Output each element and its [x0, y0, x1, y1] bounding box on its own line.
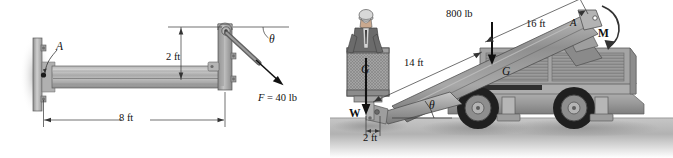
- plate-bolt-top: [41, 45, 46, 51]
- label-cg-bucket: G: [361, 64, 369, 76]
- cabinet-rear-face: [630, 48, 636, 94]
- label-dim-2ft: 2 ft: [166, 52, 180, 63]
- label-800lb: 800 lb: [446, 9, 473, 20]
- worker-figure: [347, 10, 383, 54]
- horizontal-beam: [52, 66, 224, 88]
- post-bolt-lower: [231, 76, 236, 82]
- label-cg-boom: G: [502, 66, 510, 78]
- boom-lift-truck-svg: [330, 0, 673, 158]
- dimension-8ft: [44, 92, 226, 127]
- deck-stripe: [480, 85, 542, 90]
- label-dim-8ft: 8 ft: [119, 113, 133, 124]
- cantilever-beam-svg: [0, 0, 330, 158]
- label-moment-m: M: [598, 28, 609, 40]
- figure-cantilever-beam: A 2 ft 8 ft θ F = 40 lb: [0, 0, 330, 158]
- label-dim-16ft: 16 ft: [526, 19, 546, 30]
- boom-pivot-a: [593, 16, 597, 20]
- theta-arc: [263, 27, 269, 38]
- wheel-rear: [553, 87, 595, 129]
- pin-support-a: [41, 72, 46, 77]
- force-arrow-f: [256, 60, 284, 85]
- post-base-clevis: [208, 62, 219, 71]
- post-bolt-upper: [231, 53, 236, 59]
- label-point-a: A: [56, 41, 63, 53]
- label-force-f: F = 40 lb: [258, 93, 297, 104]
- label-theta-left: θ: [269, 34, 275, 46]
- label-point-a-right: A: [570, 18, 576, 29]
- label-dim-14ft: 14 ft: [404, 58, 424, 69]
- label-theta-right: θ: [429, 100, 435, 112]
- figure-pair-container: A 2 ft 8 ft θ F = 40 lb: [0, 0, 673, 158]
- label-dim-2ft-right: 2 ft: [363, 133, 377, 144]
- label-weight-w: W: [349, 108, 361, 120]
- bucket-linkage: [366, 100, 388, 124]
- figure-boom-lift-truck: 800 lb 16 ft 14 ft 2 ft M W A G G θ: [330, 0, 673, 158]
